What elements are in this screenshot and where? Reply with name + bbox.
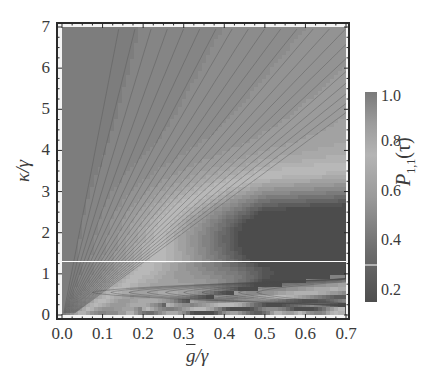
contour-figure: κ/γ g/γ P1,1(τ) 012345670.00.10.20.30.40… [0,0,443,383]
axis-tick-marks [0,0,443,383]
